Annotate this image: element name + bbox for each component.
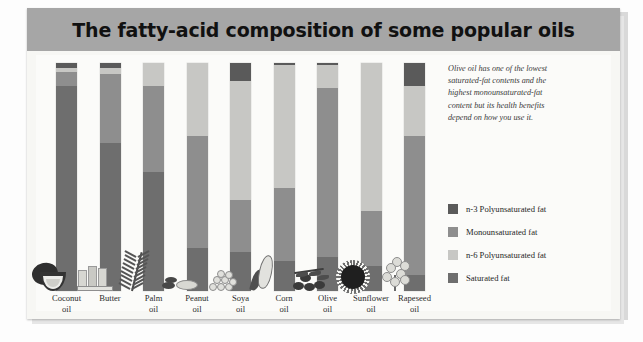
bar-segment <box>230 200 251 252</box>
stacked-bar[interactable] <box>56 63 77 291</box>
bar-column <box>187 63 208 291</box>
bar-segment <box>361 63 382 211</box>
bar-segment <box>317 88 338 257</box>
bar-segment <box>404 275 425 291</box>
legend-item[interactable]: n-3 Polyunsaturated fat <box>448 197 598 220</box>
bar-segment <box>404 86 425 136</box>
legend-item[interactable]: n-6 Polyunsaturated fat <box>448 243 598 266</box>
page-title: The fatty-acid composition of some popul… <box>72 19 574 41</box>
bar-segment <box>404 136 425 275</box>
x-axis-label-line: oil <box>387 304 442 315</box>
x-axis-label-line: oil <box>39 304 94 315</box>
legend-label: Saturated fat <box>466 273 510 283</box>
bar-segment <box>274 65 295 188</box>
bar-segment <box>230 63 251 81</box>
legend-label: n-3 Polyunsaturated fat <box>466 204 546 214</box>
chart-panel: CoconutoilButterPalmoilPeanutoilSoyaoilC… <box>36 55 611 311</box>
bar-segment <box>230 81 251 200</box>
x-axis-labels: CoconutoilButterPalmoilPeanutoilSoyaoilC… <box>42 293 450 319</box>
bar-segment <box>230 252 251 291</box>
bar-segment <box>361 211 382 266</box>
bar-column <box>230 63 251 291</box>
stacked-bar[interactable] <box>100 63 121 291</box>
bar-column <box>100 63 121 291</box>
bar-segment <box>187 136 208 248</box>
legend-label: Monounsaturated fat <box>466 227 537 237</box>
bar-segment <box>100 68 121 75</box>
bar-segment <box>317 65 338 88</box>
bar-segment <box>187 248 208 291</box>
x-axis-label-line: Rapeseed <box>387 293 442 304</box>
stacked-bar[interactable] <box>317 63 338 291</box>
bar-column <box>274 63 295 291</box>
bar-segment <box>143 172 164 291</box>
bar-segment <box>143 86 164 173</box>
legend-swatch <box>448 227 458 237</box>
legend-swatch <box>448 204 458 214</box>
bar-segment <box>274 188 295 261</box>
bar-segment <box>187 63 208 136</box>
bar-segment <box>100 74 121 142</box>
stacked-bar[interactable] <box>230 63 251 291</box>
bar-segment <box>274 261 295 291</box>
stacked-bar[interactable] <box>361 63 382 291</box>
annotation-note: Olive oil has one of the lowest saturate… <box>448 63 566 124</box>
legend-item[interactable]: Monounsaturated fat <box>448 220 598 243</box>
stacked-bar[interactable] <box>404 63 425 291</box>
bar-column <box>361 63 382 291</box>
x-axis-label: Rapeseedoil <box>387 293 442 314</box>
bar-segment <box>56 72 77 86</box>
bar-column <box>317 63 338 291</box>
legend-label: n-6 Polyunsaturated fat <box>466 250 546 260</box>
bar-column <box>143 63 164 291</box>
bar-segment <box>317 257 338 291</box>
bar-segment <box>56 86 77 291</box>
stacked-bar[interactable] <box>143 63 164 291</box>
bar-segment <box>404 63 425 86</box>
legend-swatch <box>448 273 458 283</box>
title-bar: The fatty-acid composition of some popul… <box>27 8 620 51</box>
legend-swatch <box>448 250 458 260</box>
infographic-card: The fatty-acid composition of some popul… <box>27 8 620 319</box>
chart-legend: n-3 Polyunsaturated fatMonounsaturated f… <box>448 197 598 289</box>
infographic-stage: The fatty-acid composition of some popul… <box>0 0 643 342</box>
bar-column <box>56 63 77 291</box>
bar-segment <box>361 266 382 291</box>
bar-column <box>404 63 425 291</box>
bar-segment <box>143 63 164 86</box>
stacked-bar[interactable] <box>187 63 208 291</box>
bar-segment <box>100 143 121 291</box>
bar-group <box>42 63 442 291</box>
stacked-bar[interactable] <box>274 63 295 291</box>
legend-item[interactable]: Saturated fat <box>448 266 598 289</box>
